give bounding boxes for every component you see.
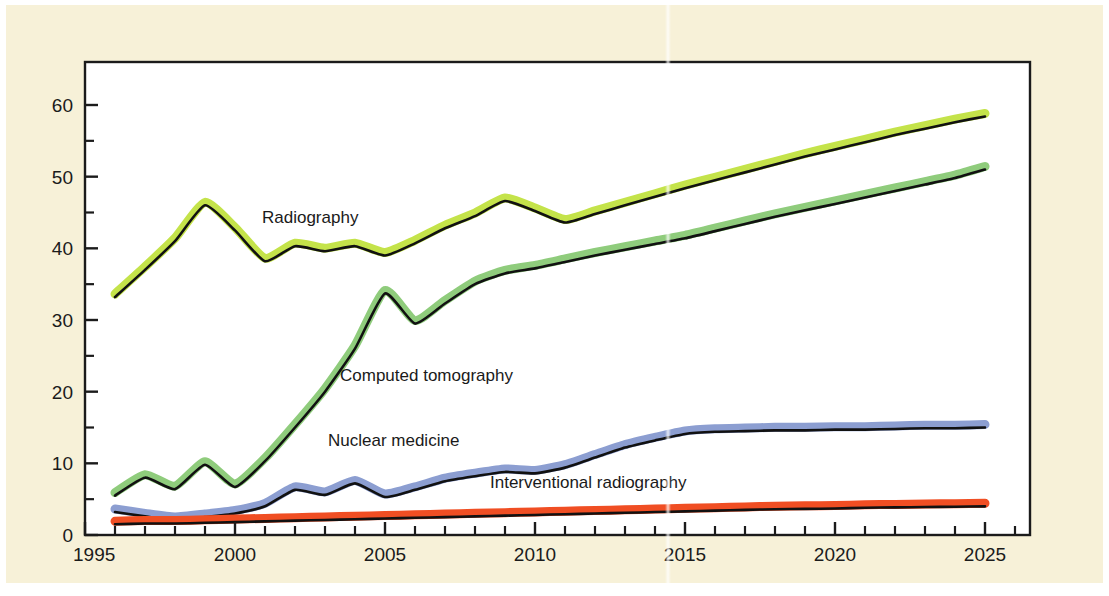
y-tick-label: 20 [52, 382, 73, 403]
line-chart: 0102030405060 19952000200520102015202020… [0, 0, 1109, 596]
y-axis-tick-labels: 0102030405060 [52, 95, 73, 546]
y-tick-label: 10 [52, 453, 73, 474]
x-tick-label: 2020 [814, 544, 856, 565]
x-axis-tick-labels: 1995200020052010201520202025 [73, 544, 1006, 565]
x-tick-label: 1995 [73, 544, 115, 565]
figure-root: 0102030405060 19952000200520102015202020… [0, 0, 1109, 596]
y-tick-label: 40 [52, 238, 73, 259]
x-tick-label: 2010 [514, 544, 556, 565]
series-inline-label: Computed tomography [340, 366, 513, 385]
x-tick-label: 2015 [664, 544, 706, 565]
y-tick-label: 30 [52, 310, 73, 331]
x-tick-label: 2005 [364, 544, 406, 565]
y-tick-label: 0 [62, 525, 73, 546]
y-tick-label: 60 [52, 95, 73, 116]
series-inline-label: Nuclear medicine [328, 431, 459, 450]
x-tick-label: 2000 [214, 544, 256, 565]
series-inline-label: Radiography [262, 208, 359, 227]
series-inline-label: Interventional radiography [490, 473, 687, 492]
y-tick-label: 50 [52, 167, 73, 188]
x-tick-label: 2025 [964, 544, 1006, 565]
